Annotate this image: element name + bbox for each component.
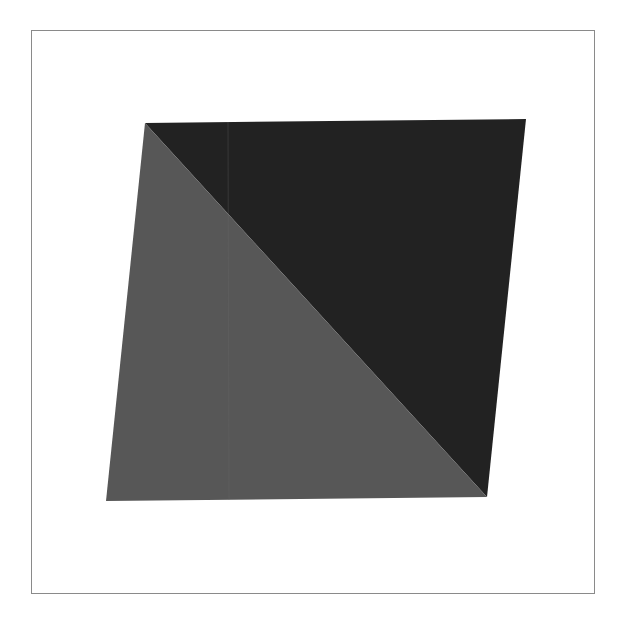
artwork-canvas	[0, 0, 627, 629]
